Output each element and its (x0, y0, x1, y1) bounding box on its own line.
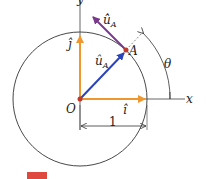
theta-label: θ (164, 58, 171, 70)
i-hat-label: î (123, 104, 127, 116)
point-a (124, 48, 129, 53)
origin-point (78, 97, 83, 102)
u-a-dot-symbol: u̇̂ (103, 13, 111, 27)
u-a-symbol: û (95, 54, 103, 68)
u-a-subscript: A (103, 61, 109, 70)
u-a-dot-label: u̇̂A (103, 14, 117, 29)
origin-label: O (66, 103, 76, 115)
point-a-label: A (129, 45, 138, 57)
figure-number-mark (27, 172, 47, 179)
radius-label: 1 (109, 116, 117, 128)
y-axis-label: y (77, 0, 84, 5)
x-axis-label: x (186, 93, 193, 105)
u-a-dot-subscript: A (111, 20, 117, 29)
u-a-label: ûA (95, 55, 109, 70)
j-hat-label: ĵ (68, 38, 72, 50)
